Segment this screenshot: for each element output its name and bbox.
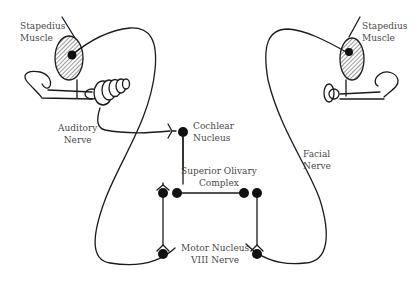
right-stapes-footplate-icon [324,84,339,102]
soc-cell-1-icon [158,188,168,198]
label-right-stapedius: Stapedius Muscle [362,20,407,44]
label-line: Muscle [362,32,407,44]
label-line: Stapedius [362,20,407,32]
label-auditory-nerve: Auditory Nerve [58,122,97,146]
label-cochlear-nucleus: Cochlear Nucleus [193,120,234,144]
auditory-nerve-path [98,108,170,133]
soc-cell-2-icon [172,188,182,198]
motor-nucleus-right-cell-icon [252,249,262,259]
left-ossicle-hook-icon [25,71,92,99]
label-line: VIII Nerve [181,254,249,266]
label-line: Auditory [58,122,97,134]
label-superior-olivary-complex: Superior Olivary Complex [181,165,257,189]
soc-cell-4-icon [252,188,262,198]
soc-cell-3-icon [239,188,249,198]
label-line: Nerve [303,160,331,172]
label-line: Muscle [20,32,65,44]
motor-nucleus-left-cell-icon [158,249,168,259]
right-stapedius-tendon [349,17,360,37]
right-facial-nerve-path [246,29,348,264]
label-line: Superior Olivary [181,165,257,177]
right-muscle-neuron-dot [345,48,353,56]
label-facial-nerve: Facial Nerve [303,148,331,172]
label-line: Stapedius [20,20,65,32]
label-left-stapedius: Stapedius Muscle [20,20,65,44]
right-stapedius-muscle-icon [340,38,364,80]
label-line: Complex [181,177,257,189]
label-line: Nucleus [193,132,234,144]
label-motor-nucleus: Motor Nucleus VIII Nerve [181,242,249,266]
label-line: Motor Nucleus [181,242,249,254]
label-line: Facial [303,148,331,160]
left-muscle-neuron-dot [68,51,77,60]
label-line: Cochlear [193,120,234,132]
left-facial-nerve-path [72,28,175,265]
label-line: Nerve [58,134,97,146]
